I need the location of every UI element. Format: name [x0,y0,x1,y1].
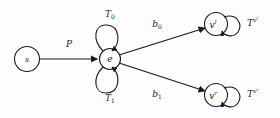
self-loop-label-t0: T0 [105,9,115,20]
node-vr[interactable]: vr [205,84,228,107]
edge-label-b0: b0 [152,19,162,30]
node-source[interactable]: s [15,47,40,72]
edge-b0 [119,28,205,55]
edge-b1 [119,63,205,91]
edge-label-b1: b1 [152,89,162,100]
node-vl[interactable]: vl [205,13,228,36]
self-loop-vl [222,16,240,36]
node-vr-label: vr [209,90,217,102]
node-e[interactable]: e [100,49,121,70]
edge-label-p: P [65,39,73,49]
self-loop-vr [222,87,240,107]
self-loop-t0 [96,25,118,51]
tree-label-vr: Tvr [247,87,259,100]
self-loop-t1 [96,67,118,93]
tree-label-vl: Tvl [247,16,258,29]
node-e-label: e [107,54,112,64]
node-source-label: s [25,55,29,64]
state-transition-diagram: s e vl vr P b0 b1 T0 [0,0,280,118]
node-vl-label: vl [210,19,217,31]
diagram-canvas: s e vl vr P b0 b1 T0 [0,0,280,118]
self-loop-label-t1: T1 [105,93,115,104]
